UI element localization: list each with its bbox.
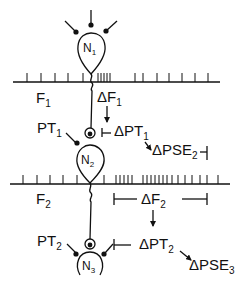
neuron-n1: N1 — [78, 33, 105, 74]
arrow-dpt1-to-dpse2 — [145, 142, 151, 150]
neural-diagram: N1 F1 ΔF1 PT1 ΔP — [0, 0, 244, 285]
pt2-input — [67, 244, 76, 253]
n3-label: N3 — [82, 259, 96, 275]
presynaptic-terminal-1 — [85, 128, 95, 138]
delta-f2-label: ΔF2 — [141, 190, 166, 210]
f2-label: F2 — [36, 190, 51, 210]
delta-pse3-label: ΔPSE3 — [189, 256, 235, 276]
delta-f1-label: ΔF1 — [97, 88, 122, 108]
neuron-n3: N3 — [77, 252, 102, 275]
delta-pse2-label: ΔPSE2 — [152, 141, 198, 161]
delta-pt2-label: ΔPT2 — [139, 235, 174, 255]
fiber-f1 — [13, 73, 220, 82]
fiber-f2 — [10, 175, 230, 184]
n1-inputs — [65, 10, 117, 35]
presynaptic-terminal-2 — [85, 239, 95, 249]
f1-label: F1 — [36, 89, 51, 109]
pt2-label: PT2 — [37, 232, 62, 252]
delta-pt1-label: ΔPT1 — [114, 122, 149, 142]
pt1-input — [66, 133, 76, 143]
pt1-label: PT1 — [37, 119, 62, 139]
n1-label: N1 — [83, 41, 97, 57]
axon-n2 — [90, 183, 92, 239]
n2-label: N2 — [81, 153, 95, 169]
neuron-n2: N2 — [77, 145, 104, 183]
